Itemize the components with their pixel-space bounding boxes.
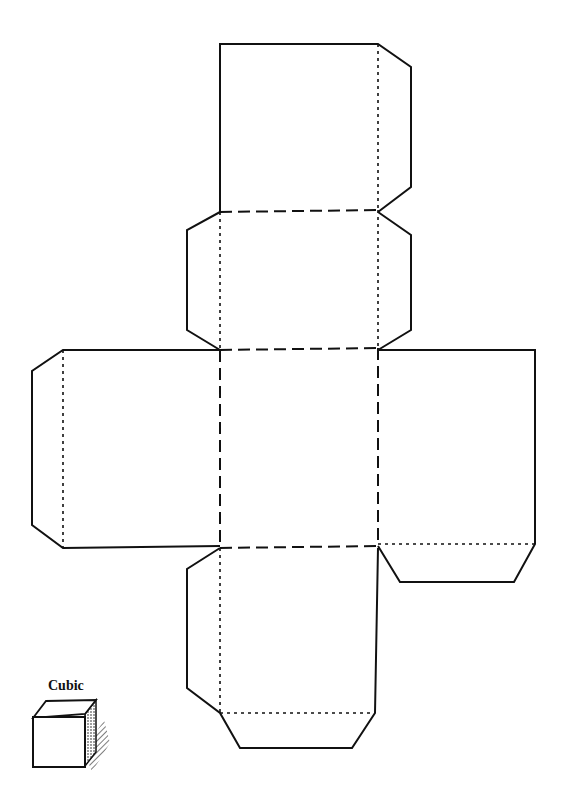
cube-icon	[33, 700, 110, 772]
diagram-title: Cubic	[48, 678, 84, 694]
cut-lines	[32, 44, 535, 748]
fold-lines	[220, 210, 378, 548]
cube-net-diagram	[0, 0, 565, 805]
tab-fold-lines	[63, 44, 535, 713]
